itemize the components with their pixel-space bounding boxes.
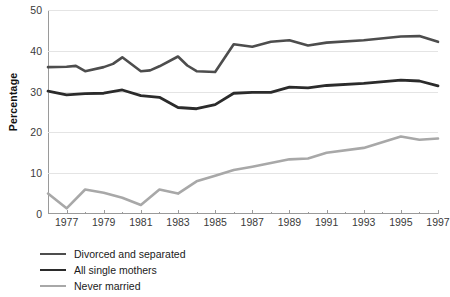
x-tick-label-1989: 1989 [278, 216, 301, 228]
y-tick-label-50: 50 [30, 4, 42, 16]
x-tick-label-1985: 1985 [203, 216, 226, 228]
y-tick-label-40: 40 [30, 45, 42, 57]
legend-item-1: All single mothers [40, 262, 186, 278]
x-tick-label-1979: 1979 [92, 216, 115, 228]
x-tick-label-1981: 1981 [129, 216, 152, 228]
y-tick-label-20: 20 [30, 126, 42, 138]
series-line-divorced-and-separated [48, 36, 438, 72]
legend-label: All single mothers [74, 264, 157, 276]
legend-swatch-line-icon [40, 285, 66, 287]
legend-item-0: Divorced and separated [40, 246, 186, 262]
legend-swatch-line-icon [40, 269, 66, 271]
legend-item-2: Never married [40, 278, 186, 294]
x-tick-label-1983: 1983 [166, 216, 189, 228]
legend-label: Never married [74, 280, 141, 292]
y-tick-label-30: 30 [30, 86, 42, 98]
y-tick-label-10: 10 [30, 167, 42, 179]
plot-area: 01020304050 1977197919811983198519871989… [48, 10, 438, 214]
x-tick-1997 [438, 210, 439, 214]
legend-swatch-line-icon [40, 253, 66, 255]
x-tick-label-1995: 1995 [389, 216, 412, 228]
y-tick-label-0: 0 [36, 208, 42, 220]
legend-label: Divorced and separated [74, 248, 186, 260]
x-tick-label-1997: 1997 [426, 216, 449, 228]
x-tick-label-1987: 1987 [241, 216, 264, 228]
series-layer [48, 10, 438, 214]
y-axis-title: Percentage [7, 59, 19, 145]
x-tick-label-1991: 1991 [315, 216, 338, 228]
legend: Divorced and separatedAll single mothers… [40, 246, 186, 294]
x-tick-label-1993: 1993 [352, 216, 375, 228]
x-tick-label-1977: 1977 [55, 216, 78, 228]
series-line-all-single-mothers [48, 80, 438, 109]
series-line-never-married [48, 136, 438, 208]
